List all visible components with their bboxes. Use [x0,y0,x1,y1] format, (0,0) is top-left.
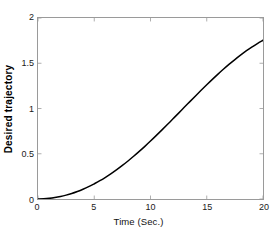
trajectory-curve [38,40,263,199]
plot-canvas [38,18,263,199]
xtick-label-3: 15 [202,203,212,212]
xtick-label-2: 10 [145,203,155,212]
figure-chart-desired-trajectory: 0 5 10 15 20 0 0.5 1 1.5 2 Time (Sec.) D… [0,0,277,236]
plot-area [37,17,264,200]
y-axis-title: Desired trajectory [3,64,14,153]
xtick-label-1: 5 [91,203,96,212]
y-axis-title-wrap: Desired trajectory [0,17,16,200]
ytick-label-2: 1 [29,104,34,113]
ytick-label-0: 0 [29,196,34,205]
ytick-label-3: 1.5 [21,58,34,67]
x-axis-title: Time (Sec.) [0,216,277,227]
tick-marks [38,18,263,199]
xtick-label-0: 0 [34,203,39,212]
ytick-label-4: 2 [29,13,34,22]
xtick-label-4: 20 [259,203,269,212]
ytick-label-1: 0.5 [21,150,34,159]
